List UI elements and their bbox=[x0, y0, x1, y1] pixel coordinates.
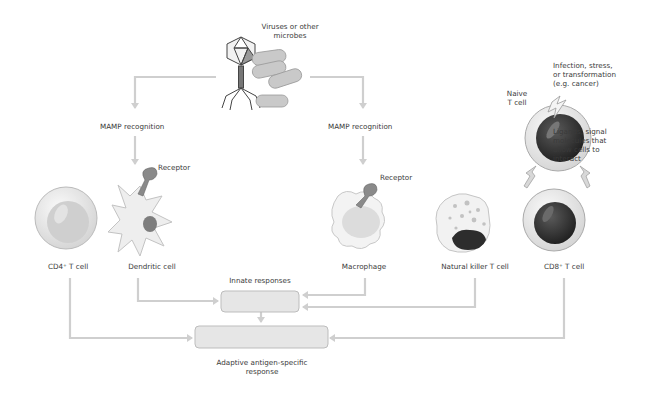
receptor-label-left: Receptor bbox=[158, 163, 190, 172]
naive-t-cell-label: Naive T cell bbox=[500, 89, 534, 107]
dendritic-cell-label: Dendritic cell bbox=[120, 262, 184, 271]
trigger-label: Infection, stress, or transformation (e.… bbox=[553, 61, 616, 88]
mamp-recognition-left: MAMP recognition bbox=[100, 122, 164, 131]
natural-killer-t-cell-label: Natural killer T cell bbox=[430, 262, 520, 271]
naive-line2: T cell bbox=[500, 98, 534, 107]
trigger-line1: Infection, stress, bbox=[553, 61, 616, 70]
adaptive-response-box bbox=[195, 326, 328, 348]
immune-response-diagram bbox=[0, 0, 648, 393]
microbes-label: Viruses or other microbes bbox=[250, 22, 330, 40]
innate-responses-label: Innate responses bbox=[220, 276, 300, 285]
naive-line1: Naive bbox=[500, 89, 534, 98]
cd8-t-cell-label: CD8⁺ T cell bbox=[532, 262, 596, 271]
trigger-line2: or transformation bbox=[553, 70, 616, 79]
cd8-t-cell-icon bbox=[523, 189, 585, 251]
receptor-label-right: Receptor bbox=[380, 173, 412, 182]
microbes-label-line2: microbes bbox=[250, 31, 330, 40]
innate-responses-box bbox=[221, 291, 299, 312]
macrophage-label: Macrophage bbox=[332, 262, 396, 271]
trigger-line3: (e.g. cancer) bbox=[553, 79, 616, 88]
adaptive-line1: Adaptive antigen-specific bbox=[200, 358, 324, 367]
top-arrows bbox=[135, 77, 363, 164]
ligand-line2: molecules that bbox=[553, 136, 607, 145]
ligand-line1: Ligands, signal bbox=[553, 127, 607, 136]
ligand-label: Ligands, signal molecules that allow cel… bbox=[553, 127, 607, 163]
ligand-line4: interact bbox=[553, 154, 607, 163]
cd4-t-cell-icon bbox=[35, 187, 97, 249]
microbes-label-line1: Viruses or other bbox=[250, 22, 330, 31]
mamp-recognition-right: MAMP recognition bbox=[328, 122, 392, 131]
cd4-t-cell-label: CD4⁺ T cell bbox=[36, 262, 100, 271]
bacteria-icon bbox=[251, 49, 303, 107]
ligand-line3: allow cells to bbox=[553, 145, 607, 154]
adaptive-line2: response bbox=[200, 367, 324, 376]
dendritic-cell-icon bbox=[108, 168, 172, 256]
macrophage-icon bbox=[332, 184, 385, 249]
adaptive-response-label: Adaptive antigen-specific response bbox=[200, 358, 324, 376]
natural-killer-t-cell-icon bbox=[436, 194, 490, 253]
